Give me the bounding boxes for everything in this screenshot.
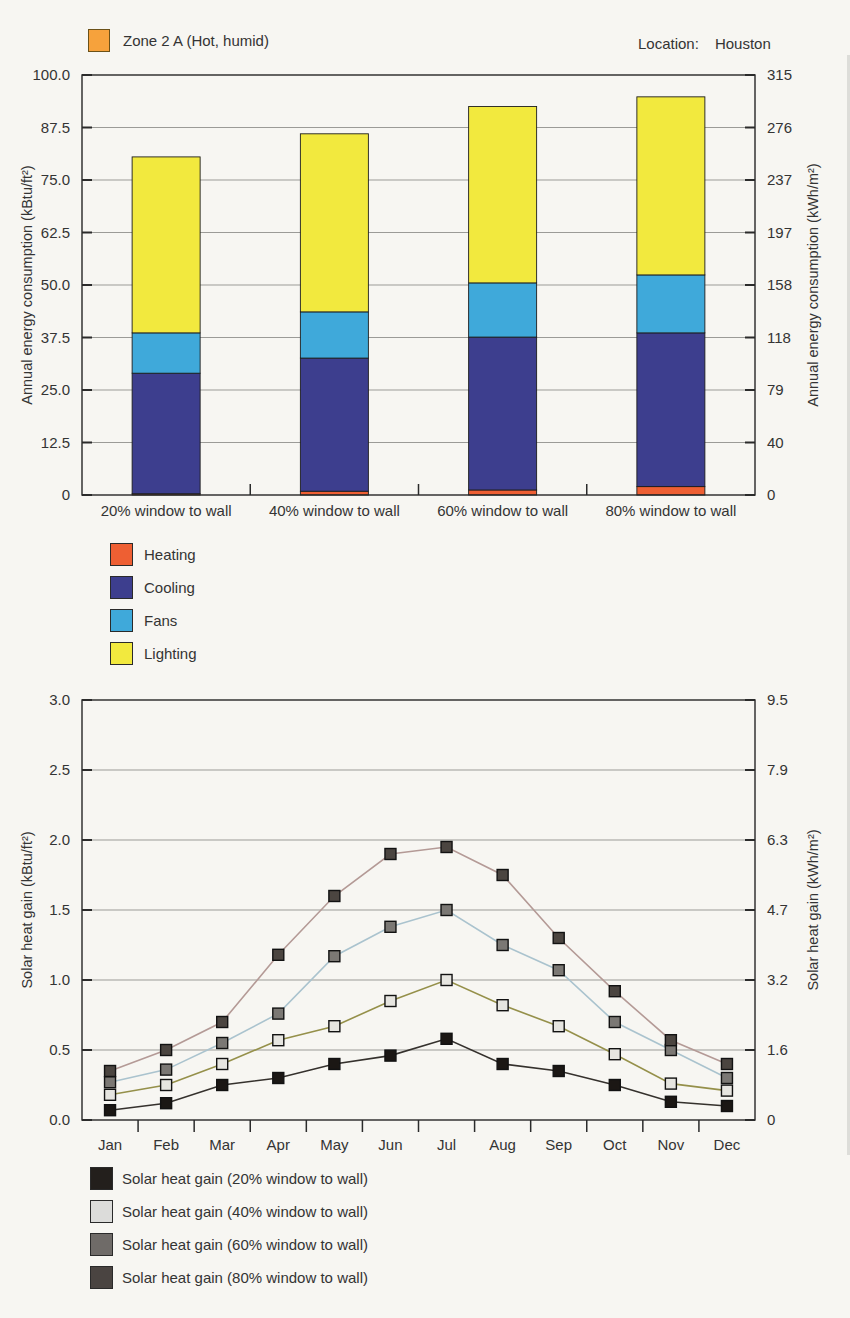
data-point-marker-0-0 (105, 1105, 116, 1116)
month-label-3: Apr (267, 1136, 290, 1153)
y-tick-label-right: 237 (767, 171, 792, 188)
y-tick-label-left: 2.0 (49, 831, 70, 848)
y-tick-label-left: 1.5 (49, 901, 70, 918)
category-label-0: 20% window to wall (101, 502, 232, 519)
solar-legend-swatch-0 (90, 1167, 113, 1190)
data-point-marker-0-7 (497, 1059, 508, 1070)
energy-legend-swatch-1 (110, 576, 133, 599)
data-point-marker-1-6 (441, 975, 452, 986)
y-tick-label-right: 7.9 (767, 761, 788, 778)
energy-legend-label-1: Cooling (144, 579, 195, 596)
bar-segment-fans-3 (637, 275, 705, 333)
month-label-5: Jun (378, 1136, 402, 1153)
month-label-4: May (320, 1136, 349, 1153)
y-tick-label-right: 158 (767, 276, 792, 293)
category-label-3: 80% window to wall (605, 502, 736, 519)
zone-legend: Zone 2 A (Hot, humid) (88, 29, 269, 52)
y-tick-label-left: 3.0 (49, 691, 70, 708)
solar-legend: Solar heat gain (20% window to wall)Sola… (90, 1167, 368, 1289)
data-point-marker-3-1 (161, 1045, 172, 1056)
data-point-marker-2-7 (497, 940, 508, 951)
data-point-marker-3-4 (329, 891, 340, 902)
month-label-7: Aug (489, 1136, 516, 1153)
data-point-marker-2-3 (273, 1008, 284, 1019)
y-axis-label-left: Annual energy consumption (kBtu/ft²) (19, 165, 35, 404)
bar-segment-fans-0 (132, 333, 200, 373)
y-tick-label-left: 62.5 (41, 224, 70, 241)
energy-legend-label-2: Fans (144, 612, 177, 629)
data-point-marker-1-0 (105, 1089, 116, 1100)
energy-legend-swatch-3 (110, 642, 133, 665)
energy-legend-swatch-0 (110, 543, 133, 566)
y-tick-label-right: 1.6 (767, 1041, 788, 1058)
series-line-2 (110, 910, 727, 1082)
bar-segment-cooling-1 (300, 358, 368, 491)
bar-segment-fans-2 (469, 283, 537, 337)
data-point-marker-3-6 (441, 842, 452, 853)
category-label-1: 40% window to wall (269, 502, 400, 519)
series-line-3 (110, 847, 727, 1071)
bar-segment-cooling-3 (637, 333, 705, 487)
location-label: Location: (638, 35, 699, 52)
zone-swatch (88, 29, 110, 52)
y-tick-label-right: 197 (767, 224, 792, 241)
solar-legend-item-3: Solar heat gain (80% window to wall) (90, 1266, 368, 1289)
data-point-marker-0-11 (721, 1101, 732, 1112)
y-tick-label-right: 315 (767, 66, 792, 83)
energy-legend-swatch-2 (110, 609, 133, 632)
data-point-marker-1-9 (609, 1049, 620, 1060)
data-point-marker-1-11 (721, 1085, 732, 1096)
energy-legend-item-2: Fans (110, 609, 197, 632)
data-point-marker-0-8 (553, 1066, 564, 1077)
energy-legend-item-1: Cooling (110, 576, 197, 599)
data-point-marker-2-5 (385, 921, 396, 932)
y-axis-label-right: Solar heat gain (kWh/m²) (805, 829, 821, 990)
solar-legend-label-2: Solar heat gain (60% window to wall) (122, 1236, 368, 1253)
data-point-marker-0-9 (609, 1080, 620, 1091)
data-point-marker-0-2 (217, 1080, 228, 1091)
bar-segment-cooling-2 (469, 337, 537, 490)
data-point-marker-1-1 (161, 1080, 172, 1091)
y-tick-label-right: 6.3 (767, 831, 788, 848)
bar-segment-lighting-1 (300, 134, 368, 312)
y-tick-label-left: 0.5 (49, 1041, 70, 1058)
y-tick-label-right: 0 (767, 486, 775, 503)
y-tick-label-left: 0 (62, 486, 70, 503)
solar-legend-item-2: Solar heat gain (60% window to wall) (90, 1233, 368, 1256)
y-axis-label-left: Solar heat gain (kBtu/ft²) (19, 831, 35, 988)
month-label-2: Mar (209, 1136, 235, 1153)
solar-legend-item-0: Solar heat gain (20% window to wall) (90, 1167, 368, 1190)
solar-legend-label-3: Solar heat gain (80% window to wall) (122, 1269, 368, 1286)
bar-segment-lighting-0 (132, 157, 200, 333)
y-tick-label-left: 2.5 (49, 761, 70, 778)
data-point-marker-2-4 (329, 951, 340, 962)
solar-legend-swatch-2 (90, 1233, 113, 1256)
energy-legend-label-3: Lighting (144, 645, 197, 662)
y-tick-label-right: 40 (767, 434, 784, 451)
energy-legend: HeatingCoolingFansLighting (110, 543, 197, 665)
y-tick-label-right: 276 (767, 119, 792, 136)
data-point-marker-2-9 (609, 1017, 620, 1028)
y-tick-label-right: 9.5 (767, 691, 788, 708)
y-tick-label-left: 0.0 (49, 1111, 70, 1128)
bar-segment-heating-2 (469, 490, 537, 495)
data-point-marker-1-10 (665, 1078, 676, 1089)
bar-segment-cooling-0 (132, 373, 200, 494)
y-tick-label-left: 100.0 (32, 66, 70, 83)
data-point-marker-3-0 (105, 1066, 116, 1077)
data-point-marker-1-4 (329, 1021, 340, 1032)
data-point-marker-2-0 (105, 1077, 116, 1088)
zone-label: Zone 2 A (Hot, humid) (123, 32, 269, 49)
month-label-8: Sep (545, 1136, 572, 1153)
data-point-marker-1-2 (217, 1059, 228, 1070)
series-line-1 (110, 980, 727, 1095)
data-point-marker-3-10 (665, 1035, 676, 1046)
y-tick-label-left: 75.0 (41, 171, 70, 188)
y-tick-label-right: 79 (767, 381, 784, 398)
data-point-marker-3-5 (385, 849, 396, 860)
data-point-marker-1-3 (273, 1035, 284, 1046)
data-point-marker-1-5 (385, 996, 396, 1007)
y-tick-label-right: 3.2 (767, 971, 788, 988)
data-point-marker-2-11 (721, 1073, 732, 1084)
month-label-11: Dec (714, 1136, 741, 1153)
